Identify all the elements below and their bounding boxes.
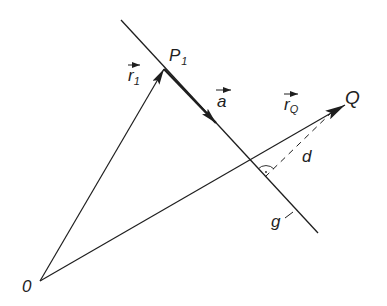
right-angle-dot [265, 171, 267, 173]
label-a: a [217, 92, 226, 111]
vector-rQ [40, 105, 345, 281]
vector-r1 [40, 69, 164, 281]
vector-line-distance-diagram: P1 r1 a rQ Q d g 0 [0, 0, 387, 306]
label-g: g [271, 212, 281, 231]
distance-d-dashed [265, 112, 332, 177]
g-label-leader [285, 212, 293, 218]
label-rQ: rQ [284, 95, 299, 115]
line-g [121, 20, 318, 233]
label-origin: 0 [22, 277, 32, 296]
label-Q: Q [345, 87, 360, 108]
label-d: d [302, 147, 312, 166]
right-angle-arc [258, 166, 274, 169]
vector-a [164, 69, 216, 123]
label-r1: r1 [128, 66, 140, 87]
label-P1: P1 [169, 46, 187, 67]
